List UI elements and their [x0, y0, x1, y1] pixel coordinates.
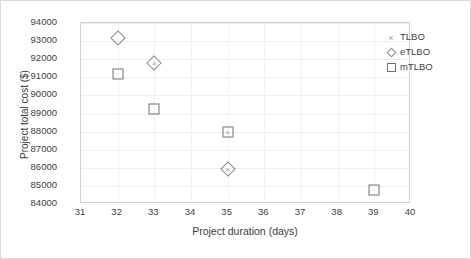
x-axis-tick-label: 35: [212, 206, 242, 217]
diamond-marker-icon: [386, 47, 396, 57]
data-point-mtlbo: [369, 184, 380, 195]
gridline-horizontal: [81, 77, 409, 78]
gridline-horizontal: [81, 59, 409, 60]
square-marker-icon: [386, 62, 396, 72]
gridline-vertical: [264, 23, 265, 202]
gridline-horizontal: [81, 114, 409, 115]
scatter-chart: 8400085000860008700088000890009000091000…: [0, 0, 471, 259]
data-point-tlbo: [224, 165, 231, 172]
gridline-horizontal: [81, 150, 409, 151]
gridline-vertical: [374, 23, 375, 202]
gridline-horizontal: [81, 23, 409, 24]
data-point-mtlbo: [149, 103, 160, 114]
gridline-vertical: [118, 23, 119, 202]
legend-item-label: TLBO: [400, 29, 425, 44]
data-point-mtlbo: [112, 68, 123, 79]
x-axis-tick-label: 31: [65, 206, 95, 217]
data-point-etlbo: [110, 31, 126, 47]
data-point-tlbo: [224, 128, 231, 135]
gridline-horizontal: [81, 168, 409, 169]
x-axis-tick-label: 34: [175, 206, 205, 217]
x-axis-title: Project duration (days): [80, 225, 410, 237]
x-axis-tick-label: 39: [358, 206, 388, 217]
plot-area: [80, 22, 410, 203]
chart-legend: TLBOeTLBOmTLBO: [386, 29, 433, 74]
y-axis-title: Project total cost ($): [19, 40, 30, 190]
legend-item-label: eTLBO: [400, 44, 430, 59]
gridline-horizontal: [81, 186, 409, 187]
gridline-horizontal: [81, 95, 409, 96]
gridline-vertical: [338, 23, 339, 202]
legend-item-label: mTLBO: [400, 59, 433, 74]
y-axis-tick-label: 84000: [11, 198, 57, 208]
cross-marker-icon: [386, 32, 396, 42]
y-axis-tick-label: 94000: [11, 17, 57, 27]
legend-item-mtlbo[interactable]: mTLBO: [386, 59, 433, 74]
x-axis-tick-label: 38: [322, 206, 352, 217]
data-point-tlbo: [151, 59, 158, 66]
x-axis-tick-label: 32: [102, 206, 132, 217]
gridline-vertical: [191, 23, 192, 202]
legend-item-etlbo[interactable]: eTLBO: [386, 44, 433, 59]
gridline-horizontal: [81, 132, 409, 133]
gridline-vertical: [301, 23, 302, 202]
legend-item-tlbo[interactable]: TLBO: [386, 29, 433, 44]
x-axis-tick-label: 33: [138, 206, 168, 217]
x-axis-tick-label: 36: [248, 206, 278, 217]
x-axis-tick-label: 40: [395, 206, 425, 217]
gridline-horizontal: [81, 41, 409, 42]
x-axis-tick-label: 37: [285, 206, 315, 217]
